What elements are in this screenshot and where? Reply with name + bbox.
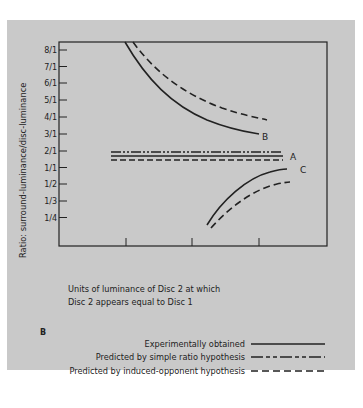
- y-ticks: [59, 50, 67, 218]
- dash-dot-line-swatch: [251, 354, 325, 360]
- curve-c-induced-opponent: [211, 182, 290, 228]
- svg-text:7/1: 7/1: [44, 63, 57, 72]
- svg-text:1/1: 1/1: [44, 164, 57, 173]
- plot-frame: [59, 42, 327, 246]
- svg-text:5/1: 5/1: [44, 96, 57, 105]
- svg-text:2/1: 2/1: [44, 147, 57, 156]
- legend-item-induced-opponent: Predicted by induced-opponent hypothesis: [70, 364, 326, 378]
- y-axis-label: Ratio: surround-luminance/disc-luminance: [18, 83, 28, 258]
- curve-b-experimental: [125, 42, 259, 134]
- curve-label-c: C: [300, 165, 306, 175]
- x-axis-label: Units of luminance of Disc 2 at which Di…: [68, 283, 220, 309]
- svg-text:6/1: 6/1: [44, 79, 57, 88]
- solid-line-swatch: [251, 341, 325, 347]
- svg-text:1/3: 1/3: [44, 197, 57, 206]
- legend-item-experimental: Experimentally obtained: [70, 337, 326, 351]
- x-ticks: [126, 238, 259, 246]
- legend: Experimentally obtained Predicted by sim…: [70, 337, 326, 378]
- dashed-line-swatch: [251, 368, 325, 374]
- panel-letter: B: [40, 328, 46, 337]
- svg-text:3/1: 3/1: [44, 130, 57, 139]
- svg-text:4/1: 4/1: [44, 113, 57, 122]
- curve-label-b: B: [262, 132, 268, 142]
- svg-text:1/2: 1/2: [44, 180, 57, 189]
- curve-label-a: A: [290, 152, 297, 162]
- figure-panel: 8/1 7/1 6/1 5/1 4/1 3/1 2/1 1/1 1/2 1/3 …: [7, 20, 355, 370]
- y-tick-labels: 8/1 7/1 6/1 5/1 4/1 3/1 2/1 1/1 1/2 1/3 …: [44, 46, 57, 223]
- svg-text:8/1: 8/1: [44, 46, 57, 55]
- line-chart: 8/1 7/1 6/1 5/1 4/1 3/1 2/1 1/1 1/2 1/3 …: [7, 20, 355, 280]
- svg-text:1/4: 1/4: [44, 214, 57, 223]
- legend-item-simple-ratio: Predicted by simple ratio hypothesis: [70, 351, 326, 365]
